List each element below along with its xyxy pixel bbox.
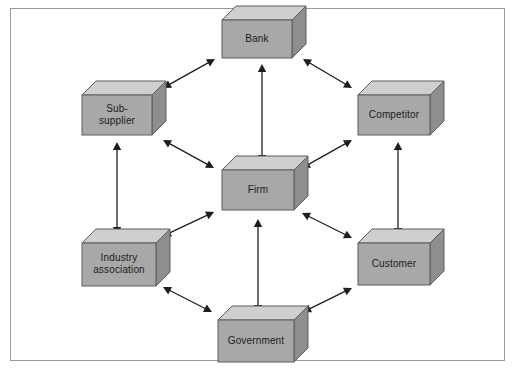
node-front-face bbox=[358, 95, 430, 135]
node-front-face bbox=[358, 243, 430, 285]
connector-subsupplier-firm bbox=[163, 140, 214, 168]
nodes-layer: BankSub-supplierCompetitorFirmIndustryas… bbox=[82, 6, 444, 362]
connector-subsupplier-industry bbox=[113, 142, 121, 235]
node-competitor[interactable]: Competitor bbox=[358, 81, 444, 135]
node-bank[interactable]: Bank bbox=[222, 6, 306, 58]
node-top-face bbox=[82, 229, 170, 243]
node-top-face bbox=[222, 156, 308, 170]
connector-government-firm bbox=[254, 219, 262, 313]
connector-customer-firm bbox=[302, 213, 352, 238]
node-government[interactable]: Government bbox=[218, 306, 308, 362]
connector-subsupplier-bank bbox=[163, 59, 215, 88]
connector-competitor-customer bbox=[394, 142, 402, 236]
connector-competitor-firm bbox=[302, 140, 352, 168]
connector-industry-firm bbox=[163, 212, 214, 237]
node-top-face bbox=[82, 81, 166, 95]
node-front-face bbox=[222, 20, 292, 58]
connector-bank-firm bbox=[258, 64, 266, 163]
diagram-svg: BankSub-supplierCompetitorFirmIndustryas… bbox=[0, 0, 517, 374]
node-front-face bbox=[82, 243, 156, 286]
node-firm[interactable]: Firm bbox=[222, 156, 308, 210]
node-front-face bbox=[222, 170, 294, 210]
connector-customer-government bbox=[303, 288, 352, 313]
node-top-face bbox=[222, 6, 306, 20]
connector-industry-government bbox=[163, 287, 212, 312]
node-subsupplier[interactable]: Sub-supplier bbox=[82, 81, 166, 135]
node-front-face bbox=[218, 320, 294, 362]
connector-bank-competitor bbox=[303, 59, 352, 88]
node-top-face bbox=[218, 306, 308, 320]
node-top-face bbox=[358, 81, 444, 95]
diagram-canvas: BankSub-supplierCompetitorFirmIndustryas… bbox=[0, 0, 517, 374]
node-front-face bbox=[82, 95, 152, 135]
node-industry[interactable]: Industryassociation bbox=[82, 229, 170, 286]
node-top-face bbox=[358, 229, 444, 243]
node-customer[interactable]: Customer bbox=[358, 229, 444, 285]
